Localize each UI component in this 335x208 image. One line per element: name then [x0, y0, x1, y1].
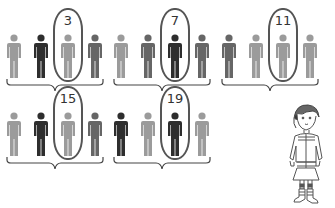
person-icon: [114, 112, 128, 158]
person-icon: [141, 34, 155, 80]
person-icon: [34, 112, 48, 158]
group-number-label: 19: [160, 91, 190, 106]
person-icon: [88, 34, 102, 80]
group-3: 3: [0, 0, 110, 80]
person-icon: [7, 34, 21, 80]
person-icon: [7, 112, 21, 158]
group-number-label: 7: [160, 13, 190, 28]
person-icon: [114, 34, 128, 80]
group-11: 11: [215, 0, 325, 80]
girl-character-illustration: [276, 100, 335, 208]
person-icon: [222, 34, 236, 80]
person-icon: [195, 112, 209, 158]
person-icon: [34, 34, 48, 80]
group-19: 19: [107, 78, 217, 158]
person-icon: [249, 34, 263, 80]
person-icon: [141, 112, 155, 158]
curly-brace: [112, 157, 212, 171]
person-icon: [195, 34, 209, 80]
group-number-label: 15: [53, 91, 83, 106]
curly-brace: [5, 157, 105, 171]
group-number-label: 3: [53, 13, 83, 28]
group-number-label: 11: [268, 13, 298, 28]
person-icon: [303, 34, 317, 80]
group-7: 7: [107, 0, 217, 80]
person-icon: [88, 112, 102, 158]
group-15: 15: [0, 78, 110, 158]
curly-brace: [220, 79, 320, 93]
